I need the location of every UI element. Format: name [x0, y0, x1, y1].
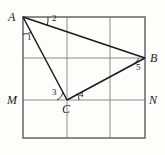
- vertex-label-n: N: [149, 94, 157, 106]
- vertex-label-c: C: [62, 103, 70, 115]
- grid-vertical-lines: [67, 17, 110, 138]
- geometry-figure: A B C M N 1 2 3 4 5: [0, 0, 165, 155]
- outer-rectangle: [23, 17, 145, 138]
- vertex-label-b: B: [150, 52, 157, 64]
- angle-label-4: 4: [79, 90, 84, 99]
- angle-label-5: 5: [136, 63, 141, 72]
- angle-label-3: 3: [52, 88, 57, 97]
- grid-horizontal-lines: [23, 58, 145, 100]
- figure-canvas: [0, 0, 165, 155]
- angle-label-2: 2: [52, 14, 57, 23]
- vertex-label-m: M: [7, 94, 17, 106]
- angle-arc-2: [47, 17, 48, 25]
- angle-arc-3: [57, 91, 63, 100]
- vertex-label-a: A: [8, 11, 15, 23]
- angle-label-1: 1: [27, 33, 32, 42]
